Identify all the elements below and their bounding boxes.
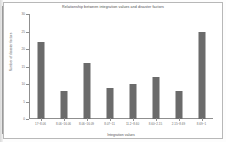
bar-slot (121, 14, 144, 119)
x-tick (110, 118, 111, 121)
y-tick-label: 15 (21, 65, 25, 69)
bar[interactable] (106, 88, 113, 120)
bar-slot (167, 14, 190, 119)
bar-chart: Relationship between integration values … (3, 2, 223, 139)
bar-slot (29, 14, 52, 119)
x-tick-label: 17~8.06 (29, 122, 52, 126)
y-tick-label: 0 (23, 117, 25, 121)
y-tick-label: 25 (21, 30, 25, 34)
y-tick-label: 20 (21, 47, 25, 51)
bar[interactable] (152, 77, 159, 119)
figure-page: Relationship between integration values … (0, 0, 226, 142)
x-tick-label: 11.2~8.60 (121, 122, 144, 126)
bar[interactable] (37, 42, 44, 119)
x-tick-label: 8.69~1 (190, 122, 213, 126)
x-tick-label: 8.06~16.06 (52, 122, 75, 126)
bar[interactable] (198, 32, 205, 120)
y-tick: 0 (26, 119, 29, 120)
bar-slot (144, 14, 167, 119)
y-tick-label: 30 (21, 12, 25, 16)
x-tick (179, 118, 180, 121)
x-axis-label: Integration values (29, 133, 213, 137)
bar[interactable] (83, 63, 90, 119)
x-tick (87, 118, 88, 121)
bar[interactable] (175, 91, 182, 119)
chart-title: Relationship between integration values … (3, 5, 223, 10)
y-tick-label: 5 (23, 100, 25, 104)
x-tick (64, 118, 65, 121)
plot-area (29, 14, 213, 119)
y-axis-label: Number of disaster factors (9, 16, 13, 88)
x-tick-label: 8.60~2.15 (144, 122, 167, 126)
bar-slot (190, 14, 213, 119)
bar[interactable] (129, 84, 136, 119)
x-tick-label: 8.06~16.09 (75, 122, 98, 126)
x-tick (133, 118, 134, 121)
x-tick-label: 8.07~11 (98, 122, 121, 126)
bar-slot (52, 14, 75, 119)
y-tick-label: 10 (21, 82, 25, 86)
x-tick (156, 118, 157, 121)
bar[interactable] (60, 91, 67, 119)
bar-slot (75, 14, 98, 119)
x-tick (202, 118, 203, 121)
x-tick-label: 2.15~8.69 (167, 122, 190, 126)
bar-slot (98, 14, 121, 119)
x-tick (41, 118, 42, 121)
